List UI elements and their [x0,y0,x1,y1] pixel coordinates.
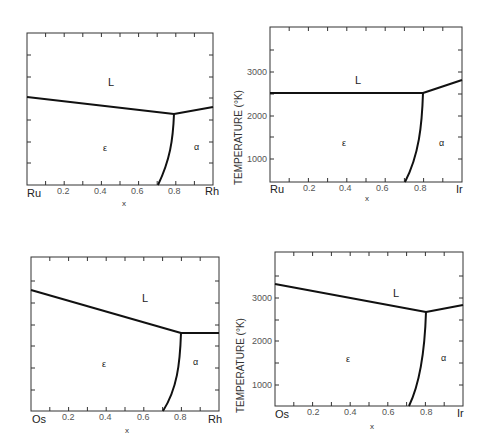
top-ticks [50,257,200,261]
chart-ru-ir: 3000 2000 1000 L ε α Ru 0.2 0.4 0.6 0.8 … [243,0,486,224]
plot-frame [275,252,463,406]
side-ticks [270,50,462,159]
x-tick-0-2: 0.2 [62,412,75,422]
phase-diagram-ru-ir: 3000 2000 1000 L ε α Ru 0.2 0.4 0.6 0.8 … [243,0,486,224]
bottom-ticks [289,178,443,182]
x-right-element: Ir [457,407,464,419]
x-tick-0-8: 0.8 [168,186,181,196]
x-tick-0-4: 0.4 [94,186,107,196]
x-left-element: Ru [270,183,284,195]
chart-os-ir: 3000 2000 1000 L ε α Os 0.2 0.4 0.6 0.8 … [243,224,486,448]
x-tick-0-2: 0.2 [307,407,320,417]
epsilon-alpha-boundary [158,114,174,185]
bottom-ticks [46,181,195,185]
x-axis-title: x [125,426,129,435]
y-tick-1000: 1000 [252,380,272,390]
x-right-element: Rh [205,185,219,197]
bottom-ticks [294,402,444,406]
x-left-element: Os [275,408,290,420]
solidus-alpha-line [423,80,462,93]
x-tick-0-4: 0.4 [339,183,352,193]
plot-frame [27,33,213,185]
solidus-epsilon-line [27,97,174,114]
phase-label-liquid: L [355,74,361,86]
bottom-ticks [50,407,200,411]
solidus-epsilon-line [275,284,426,312]
x-tick-0-6: 0.6 [131,186,144,196]
chart-ru-rh: L ε α Ru 0.2 0.4 0.6 0.8 Rh x [0,0,243,224]
phase-label-alpha: α [441,353,446,363]
side-ticks [27,55,213,163]
y-tick-2000: 2000 [247,111,267,121]
x-axis-title: x [365,194,369,203]
x-tick-0-6: 0.6 [382,407,395,417]
phase-label-epsilon: ε [103,143,107,153]
epsilon-alpha-boundary [163,333,181,411]
solidus-epsilon-line [31,290,181,333]
y-tick-1000: 1000 [247,154,267,164]
phase-label-alpha: α [439,138,444,148]
chart-os-rh: L ε α Os 0.2 0.4 0.6 0.8 Rh x [0,224,243,448]
x-tick-0-2: 0.2 [57,186,70,196]
y-tick-2000: 2000 [252,336,272,346]
top-ticks [294,252,444,256]
y-axis-title-top: TEMPERATURE (°K) [228,60,248,190]
y-axis: 3000 2000 1000 [252,293,272,390]
epsilon-alpha-boundary [409,312,426,406]
x-right-element: Ir [456,183,463,195]
x-left-element: Os [32,413,47,425]
phase-label-alpha: α [193,357,198,367]
x-tick-0-4: 0.4 [99,412,112,422]
plot-frame [270,27,462,182]
phase-label-liquid: L [393,287,399,299]
phase-label-epsilon: ε [346,354,350,364]
x-left-element: Ru [27,187,41,199]
side-ticks [275,276,463,385]
x-tick-0-6: 0.6 [137,412,150,422]
phase-label-liquid: L [108,76,114,88]
phase-label-liquid: L [142,292,148,304]
x-tick-0-6: 0.6 [376,183,389,193]
top-ticks [46,33,195,37]
phase-label-epsilon: ε [102,359,106,369]
x-right-element: Rh [208,413,222,425]
x-tick-0-8: 0.8 [174,412,187,422]
top-ticks [289,27,443,31]
y-tick-3000: 3000 [247,67,267,77]
y-axis-title: TEMPERATURE (°K) [233,90,244,185]
y-tick-3000: 3000 [252,293,272,303]
x-tick-0-2: 0.2 [303,183,316,193]
x-tick-0-4: 0.4 [344,407,357,417]
epsilon-alpha-boundary [405,93,423,182]
phase-label-epsilon: ε [342,138,346,148]
x-tick-0-8: 0.8 [420,407,433,417]
phase-diagram-os-ir: 3000 2000 1000 L ε α Os 0.2 0.4 0.6 0.8 … [243,224,486,448]
phase-diagram-ru-rh: L ε α Ru 0.2 0.4 0.6 0.8 Rh x [0,0,243,224]
y-axis: 3000 2000 1000 [247,67,267,164]
x-axis-title: x [122,199,126,208]
x-axis-title: x [370,422,374,431]
x-tick-0-8: 0.8 [414,183,427,193]
phase-label-alpha: α [194,142,199,152]
solidus-alpha-line [174,107,213,114]
phase-diagram-os-rh: L ε α Os 0.2 0.4 0.6 0.8 Rh x [0,224,243,448]
solidus-alpha-line [426,305,463,312]
